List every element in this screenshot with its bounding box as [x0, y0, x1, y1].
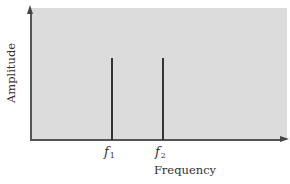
tick-label-f2-sub: 2 — [161, 151, 166, 160]
tick-label-f1: f1 — [104, 144, 115, 160]
tick-label-f2-base: f — [155, 144, 160, 159]
tick-label-f1-base: f — [104, 144, 109, 159]
spectral-line-f2 — [162, 58, 164, 140]
spectral-line-f1 — [111, 58, 113, 140]
y-axis — [30, 12, 32, 140]
plot-area — [31, 8, 287, 139]
tick-label-f1-sub: 1 — [110, 151, 115, 160]
x-axis — [30, 139, 282, 141]
tick-label-f2: f2 — [155, 144, 166, 160]
y-axis-arrow-icon — [27, 5, 33, 14]
x-axis-arrow-icon — [280, 136, 289, 142]
x-axis-title: Frequency — [0, 163, 290, 177]
y-axis-title: Amplitude — [4, 38, 18, 108]
